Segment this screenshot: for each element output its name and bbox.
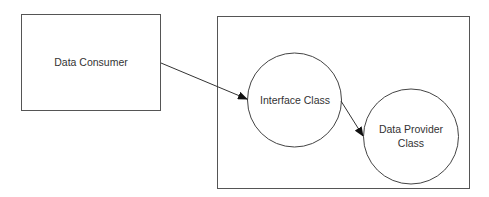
consumer-to-interface-arrow — [161, 63, 247, 99]
interface-to-provider-arrow — [341, 101, 363, 136]
data-provider-label-line2: Class — [364, 137, 458, 150]
diagram-canvas — [0, 0, 489, 197]
interface-class-label: Interface Class — [248, 94, 342, 107]
consumer-label: Data Consumer — [21, 56, 161, 69]
data-provider-label-line1: Data Provider — [364, 123, 458, 136]
